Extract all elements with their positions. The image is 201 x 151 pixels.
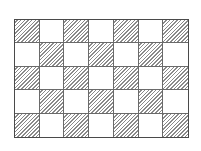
hatched-cell bbox=[15, 114, 40, 137]
plain-cell bbox=[40, 67, 65, 90]
hatched-cell bbox=[114, 114, 139, 137]
plain-cell bbox=[64, 43, 89, 66]
plain-cell bbox=[139, 67, 164, 90]
hatched-cell bbox=[163, 114, 188, 137]
plain-cell bbox=[114, 43, 139, 66]
hatched-cell bbox=[40, 43, 65, 66]
plain-cell bbox=[163, 90, 188, 113]
hatched-cell bbox=[64, 114, 89, 137]
plain-cell bbox=[163, 43, 188, 66]
hatched-cell bbox=[89, 90, 114, 113]
plain-cell bbox=[40, 114, 65, 137]
plain-cell bbox=[89, 20, 114, 43]
plain-cell bbox=[139, 20, 164, 43]
checkerboard-grid bbox=[14, 19, 189, 138]
hatched-cell bbox=[40, 90, 65, 113]
hatched-cell bbox=[114, 67, 139, 90]
hatched-cell bbox=[139, 90, 164, 113]
plain-cell bbox=[89, 67, 114, 90]
hatched-cell bbox=[163, 67, 188, 90]
plain-cell bbox=[40, 20, 65, 43]
hatched-cell bbox=[163, 20, 188, 43]
plain-cell bbox=[139, 114, 164, 137]
plain-cell bbox=[15, 43, 40, 66]
plain-cell bbox=[89, 114, 114, 137]
hatched-cell bbox=[64, 20, 89, 43]
hatched-cell bbox=[114, 20, 139, 43]
plain-cell bbox=[15, 90, 40, 113]
plain-cell bbox=[114, 90, 139, 113]
hatched-cell bbox=[15, 67, 40, 90]
hatched-cell bbox=[15, 20, 40, 43]
hatched-cell bbox=[64, 67, 89, 90]
hatched-cell bbox=[139, 43, 164, 66]
plain-cell bbox=[64, 90, 89, 113]
hatched-cell bbox=[89, 43, 114, 66]
